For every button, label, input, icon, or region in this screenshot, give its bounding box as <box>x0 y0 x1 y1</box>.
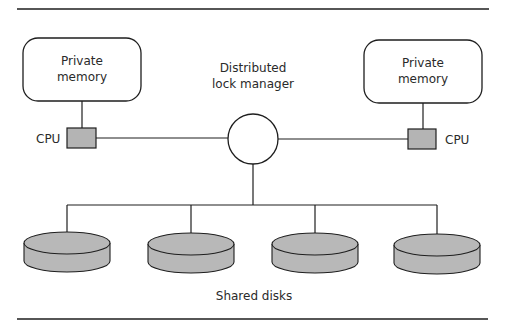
disk-1 <box>24 232 110 272</box>
left-memory-label-1: Private <box>61 54 103 68</box>
right-private-memory: Private memory <box>364 40 482 103</box>
left-cpu: CPU <box>36 128 96 148</box>
left-cpu-label: CPU <box>36 132 60 146</box>
right-cpu: CPU <box>408 129 469 149</box>
lock-manager-label-1: Distributed <box>220 61 287 75</box>
disk-2 <box>148 233 234 273</box>
right-cpu-label: CPU <box>445 133 469 147</box>
left-private-memory: Private memory <box>23 38 141 101</box>
lock-manager: Distributed lock manager <box>212 61 294 164</box>
disk-3 <box>272 233 358 273</box>
right-memory-label-2: memory <box>398 72 448 86</box>
shared-disks-caption: Shared disks <box>216 289 292 303</box>
diagram-canvas: Private memory Private memory CPU CPU Di… <box>0 0 506 326</box>
right-memory-label-1: Private <box>402 56 444 70</box>
left-memory-label-2: memory <box>57 70 107 84</box>
disk-4 <box>394 234 480 274</box>
lock-manager-label-2: lock manager <box>212 77 294 91</box>
